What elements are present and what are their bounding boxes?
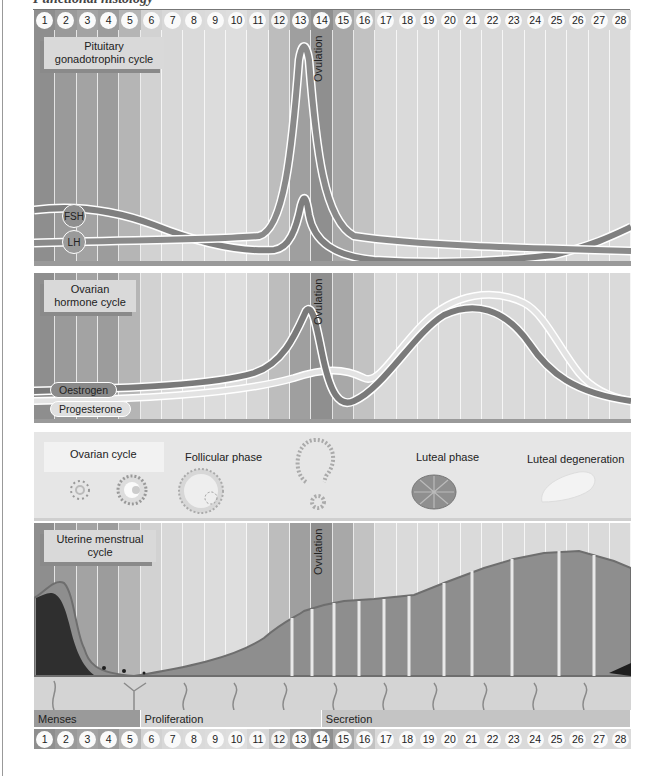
day-number: 28 — [612, 731, 629, 748]
day-number: 20 — [441, 12, 458, 29]
day-cell: 25 — [546, 729, 567, 749]
day-number: 9 — [207, 12, 224, 29]
day-cell: 1 — [34, 10, 55, 30]
day-number: 10 — [228, 731, 245, 748]
day-cell: 21 — [461, 10, 482, 30]
day-number: 3 — [79, 12, 96, 29]
fsh-label: FSH — [62, 204, 86, 228]
pituitary-panel-label: Pituitary gonadotrophin cycle — [44, 37, 164, 69]
day-cell: 10 — [226, 10, 247, 30]
day-number: 8 — [185, 12, 202, 29]
day-cell: 17 — [375, 10, 396, 30]
day-number: 4 — [100, 12, 117, 29]
day-number: 27 — [591, 12, 608, 29]
day-number: 3 — [79, 731, 96, 748]
day-number: 11 — [249, 12, 266, 29]
day-cell: 12 — [269, 729, 290, 749]
day-number: 13 — [292, 12, 309, 29]
day-cell: 6 — [141, 729, 162, 749]
day-number: 19 — [420, 731, 437, 748]
oestrogen-label: Oestrogen — [50, 382, 117, 398]
day-number: 18 — [399, 12, 416, 29]
day-cell: 20 — [439, 10, 460, 30]
ovarian-hormone-panel: Ovarian hormone cycle Ovulation Oestroge… — [34, 273, 631, 423]
ovarian-hormone-panel-label: Ovarian hormone cycle — [44, 280, 136, 312]
corpus-luteum-icon — [412, 475, 456, 509]
day-number: 23 — [505, 731, 522, 748]
day-cell: 11 — [247, 10, 268, 30]
ovarian-cycle-strip: Ovarian cycle Follicular phase Luteal ph… — [34, 432, 631, 521]
day-number: 10 — [228, 12, 245, 29]
day-cell: 1 — [34, 729, 55, 749]
day-number: 11 — [249, 731, 266, 748]
day-number: 16 — [356, 731, 373, 748]
day-number: 1 — [36, 12, 53, 29]
day-cell: 23 — [503, 10, 524, 30]
day-cell: 14 — [311, 10, 332, 30]
day-number: 1 — [36, 731, 53, 748]
day-number: 7 — [164, 731, 181, 748]
corpus-albicans-icon — [542, 472, 595, 502]
day-cell: 3 — [77, 729, 98, 749]
day-number: 18 — [399, 731, 416, 748]
day-cell: 4 — [98, 729, 119, 749]
day-cell: 25 — [546, 10, 567, 30]
progesterone-label: Progesterone — [50, 401, 131, 417]
day-cell: 19 — [418, 10, 439, 30]
day-number: 23 — [505, 12, 522, 29]
day-number: 25 — [548, 12, 565, 29]
day-cell: 15 — [333, 10, 354, 30]
day-number: 16 — [356, 12, 373, 29]
day-number: 14 — [313, 12, 330, 29]
day-cell: 18 — [397, 729, 418, 749]
day-number: 14 — [313, 731, 330, 748]
day-number: 5 — [121, 12, 138, 29]
day-number: 24 — [527, 731, 544, 748]
day-cell: 12 — [269, 10, 290, 30]
day-cell: 19 — [418, 729, 439, 749]
day-cell: 23 — [503, 729, 524, 749]
day-cell: 18 — [397, 10, 418, 30]
day-cell: 9 — [205, 729, 226, 749]
day-cell: 15 — [333, 729, 354, 749]
page-border — [2, 0, 3, 776]
ovulation-label: Ovulation — [312, 279, 324, 325]
day-cell: 26 — [567, 10, 588, 30]
day-number: 12 — [271, 731, 288, 748]
day-cell: 2 — [55, 10, 76, 30]
phase-proliferation: Proliferation — [141, 710, 322, 727]
day-cell: 8 — [183, 10, 204, 30]
day-cell: 16 — [354, 729, 375, 749]
day-number: 28 — [612, 12, 629, 29]
day-number: 4 — [100, 731, 117, 748]
day-number: 17 — [377, 12, 394, 29]
ovulation-label: Ovulation — [312, 36, 324, 82]
day-cell: 28 — [610, 729, 631, 749]
ovulation-label: Ovulation — [312, 529, 324, 575]
day-number: 26 — [569, 731, 586, 748]
day-number: 26 — [569, 12, 586, 29]
day-cell: 5 — [119, 729, 140, 749]
day-number-row-bottom: 1234567891011121314151617181920212223242… — [34, 729, 631, 749]
ovarian-follicle-illustrations — [34, 432, 631, 518]
day-cell: 26 — [567, 729, 588, 749]
day-cell: 21 — [461, 729, 482, 749]
day-number: 13 — [292, 731, 309, 748]
day-cell: 27 — [589, 729, 610, 749]
day-cell: 3 — [77, 10, 98, 30]
uterine-phase-bar: MensesProliferationSecretion — [34, 710, 631, 727]
lh-label: LH — [62, 230, 86, 254]
day-cell: 6 — [141, 10, 162, 30]
day-number: 21 — [463, 12, 480, 29]
secondary-follicle-icon — [179, 469, 223, 513]
day-number: 22 — [484, 731, 501, 748]
page-header-title: Functional histology — [33, 0, 153, 7]
day-cell: 16 — [354, 10, 375, 30]
day-number: 2 — [57, 12, 74, 29]
pituitary-gonadotrophin-panel: Pituitary gonadotrophin cycle Ovulation … — [34, 30, 631, 266]
day-cell: 22 — [482, 729, 503, 749]
day-number: 17 — [377, 731, 394, 748]
day-number: 9 — [207, 731, 224, 748]
uterine-panel-label: Uterine menstrual cycle — [44, 530, 156, 562]
day-cell: 14 — [311, 729, 332, 749]
